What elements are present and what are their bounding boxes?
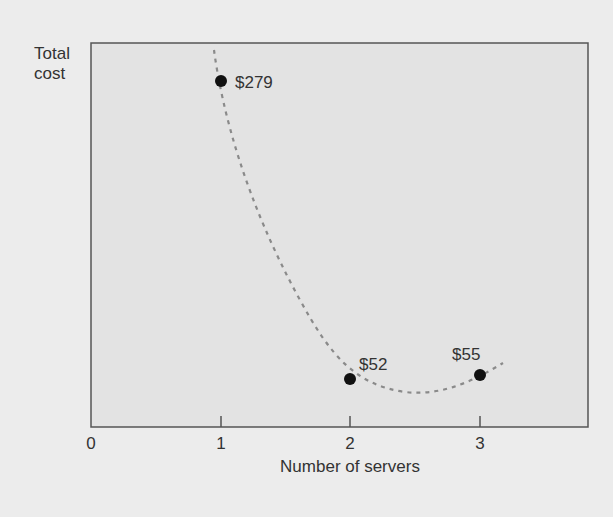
x-tick-label-3: 3: [475, 434, 484, 453]
x-tick-label-1: 1: [216, 434, 225, 453]
plot-area: [91, 43, 588, 427]
chart: Total cost 0 1 2 3 Number of servers $27…: [0, 0, 613, 517]
data-label-1: $279: [235, 73, 273, 92]
plot-svg: 0 1 2 3 Number of servers $279 $52 $55: [0, 0, 613, 517]
x-tick-label-0: 0: [86, 434, 95, 453]
data-point-3: [474, 369, 486, 381]
data-point-1: [215, 75, 227, 87]
x-axis-label: Number of servers: [280, 457, 420, 476]
x-tick-label-2: 2: [345, 434, 354, 453]
data-label-3: $55: [452, 345, 480, 364]
data-label-2: $52: [359, 355, 387, 374]
data-point-2: [344, 373, 356, 385]
